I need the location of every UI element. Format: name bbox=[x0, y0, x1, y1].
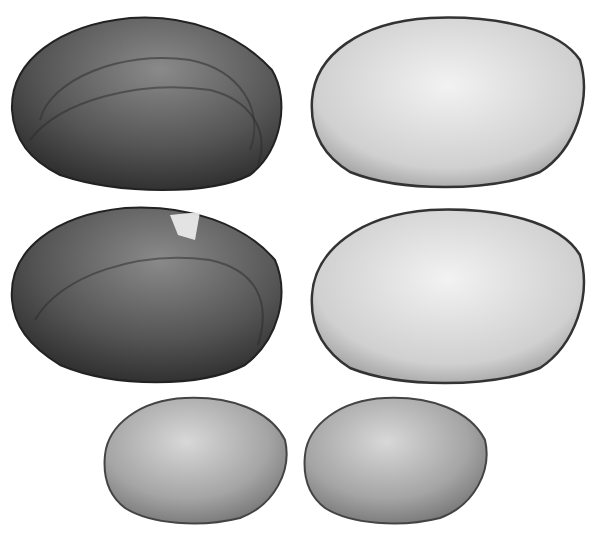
shell-exterior-1 bbox=[12, 18, 281, 190]
shell-exterior-2 bbox=[12, 208, 282, 383]
shell-interior-4 bbox=[305, 398, 487, 524]
shell-interior-2 bbox=[312, 210, 584, 383]
shell-interior-1 bbox=[312, 18, 584, 187]
shell-interior-3 bbox=[105, 398, 287, 524]
shell-figure bbox=[0, 0, 598, 540]
